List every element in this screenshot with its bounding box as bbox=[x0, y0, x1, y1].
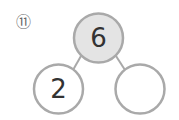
left-value: 2 bbox=[50, 74, 67, 104]
right-circle[interactable] bbox=[116, 65, 165, 114]
connector-left bbox=[73, 56, 81, 70]
number-bond-diagram: 6 2 bbox=[0, 0, 179, 120]
connector-right bbox=[116, 56, 125, 70]
top-value: 6 bbox=[90, 23, 107, 53]
